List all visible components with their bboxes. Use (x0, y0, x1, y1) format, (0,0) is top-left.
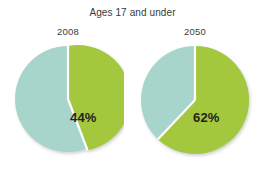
pie-chart-2050: 2050 62% (136, 26, 254, 164)
pie-graphic-2008 (12, 40, 124, 158)
pie-chart-2008: 2008 44% (12, 26, 124, 162)
pie-label-2050: 2050 (136, 26, 254, 37)
pie-chart-figure: Ages 17 and under 2008 44% 2050 (0, 0, 265, 176)
pie-label-2008: 2008 (12, 26, 124, 37)
pie-value-label-2050: 62% (193, 110, 220, 125)
chart-title: Ages 17 and under (0, 7, 265, 19)
pie-value-label-2008: 44% (70, 110, 97, 125)
pie-graphic-2050 (136, 40, 254, 160)
